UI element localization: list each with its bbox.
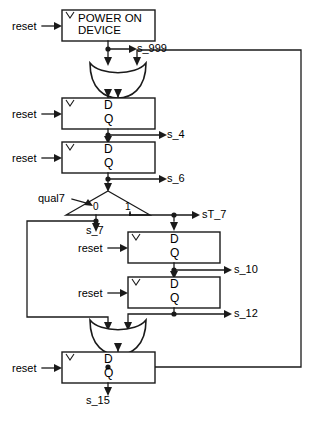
arrowhead-reset-ff-s10 [120, 244, 128, 252]
power-on-device-label-line1: POWER ON [78, 12, 154, 24]
wire-reset-to-ff-s6 [42, 154, 62, 162]
arrowhead-s6-label [159, 175, 167, 183]
arrowhead-s4-label [159, 131, 167, 139]
signal-label-s15: s_15 [86, 394, 110, 406]
schematic-svg [0, 0, 314, 421]
signal-label-sT7: sT_7 [202, 208, 226, 220]
input-label-reset-ff-s6: reset [12, 152, 36, 164]
input-label-reset-ff-s15: reset [12, 362, 36, 374]
arrowhead-s999-label [129, 45, 137, 53]
mux-port-1-label: 1 [125, 201, 131, 212]
input-label-reset-ff-s4: reset [12, 108, 36, 120]
ff-s15-q-label: Q [104, 367, 113, 380]
arrowhead-reset-ff-s6 [54, 154, 62, 162]
ff-s10-d-label: D [170, 233, 179, 246]
signal-label-s12: s_12 [234, 307, 258, 319]
arrowhead-s10-label [224, 266, 232, 274]
arrowhead-or-top-left-input [104, 57, 112, 66]
arrowhead-reset-ff-s4 [54, 110, 62, 118]
input-label-reset-ff-s10: reset [78, 242, 102, 254]
input-label-qual7: qual7 [38, 192, 65, 204]
input-label-reset-power-on: reset [12, 20, 36, 32]
arrowhead-s12-label [224, 310, 232, 318]
signal-label-s10: s_10 [234, 263, 258, 275]
signal-label-s4: s_4 [167, 128, 185, 140]
wire-s999 [104, 41, 137, 66]
ff-s12-q-label: Q [170, 292, 179, 305]
wire-s7-feedback [27, 221, 112, 331]
ff-s12-d-label: D [170, 278, 179, 291]
arrowhead-or-top-right-input [133, 57, 141, 66]
arrowhead-reset-ff-s12 [120, 289, 128, 297]
wire-reset-to-ff-s10 [108, 244, 128, 252]
ff-s4-q-label: Q [104, 113, 113, 126]
ff-s10-q-label: Q [170, 247, 179, 260]
arrowhead-ff-s10-d-input [170, 222, 178, 231]
wire-reset-to-ff-s15 [42, 364, 62, 372]
wire-s6 [104, 173, 167, 192]
ff-s6-d-label: D [104, 143, 113, 156]
input-label-reset-ff-s12: reset [78, 287, 102, 299]
arrowhead-reset-power-on [54, 22, 62, 30]
arrowhead-reset-ff-s15 [54, 364, 62, 372]
arrowhead-sT7-label [192, 211, 200, 219]
ff-s4-d-label: D [104, 99, 113, 112]
circuit-diagram-canvas: POWER ON DEVICE reset reset reset reset … [0, 0, 314, 421]
wire-reset-to-ff-s12 [108, 289, 128, 297]
wire-reset-to-power-on-device [42, 22, 62, 30]
signal-label-s7: s_7 [86, 224, 104, 236]
ff-s15-d-label: D [104, 353, 113, 366]
mux-qual7 [66, 191, 150, 215]
mux-port-0-label: 0 [93, 201, 99, 212]
wire-reset-to-ff-s4 [42, 110, 62, 118]
signal-label-s999: s_999 [137, 42, 167, 54]
signal-label-s6: s_6 [167, 172, 185, 184]
ff-s6-q-label: Q [104, 157, 113, 170]
power-on-device-label-line2: DEVICE [78, 24, 154, 36]
